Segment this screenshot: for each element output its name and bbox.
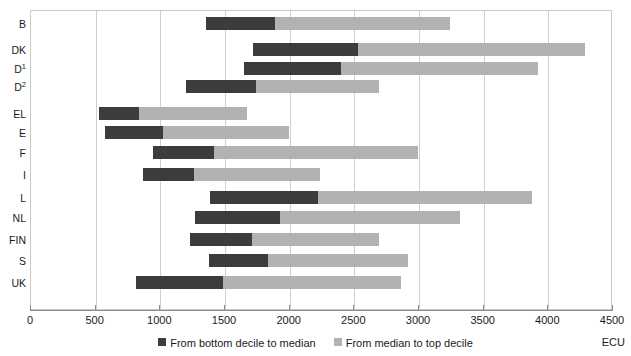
bar-segment-median-to-top (341, 62, 538, 75)
x-tick (159, 305, 160, 311)
x-tick (95, 305, 96, 311)
bar-row (30, 251, 612, 271)
y-axis-label-b: B (0, 14, 26, 34)
x-tick (418, 305, 419, 311)
bar-segment-median-to-top (280, 211, 460, 224)
y-axis-label-text: B (19, 18, 26, 30)
x-tick (483, 305, 484, 311)
bar (153, 146, 418, 159)
y-axis-label-superscript: 1 (22, 62, 26, 71)
bar-row (30, 123, 612, 143)
bar-segment-median-to-top (214, 146, 418, 159)
bar-segment-bottom-to-median (143, 168, 194, 181)
bar (136, 276, 401, 289)
y-axis-label-nl: NL (0, 208, 26, 228)
bar-segment-bottom-to-median (136, 276, 223, 289)
bar (195, 211, 460, 224)
x-tick (224, 305, 225, 311)
y-axis-label-d1: D1 (0, 59, 26, 79)
y-axis-label-dk: DK (0, 40, 26, 60)
bar (210, 191, 532, 204)
bar (105, 126, 289, 139)
x-tick (612, 305, 613, 311)
bar-segment-bottom-to-median (206, 17, 275, 30)
bar-segment-bottom-to-median (209, 254, 268, 267)
y-axis-label-el: EL (0, 104, 26, 124)
y-axis-label-text: D (14, 63, 22, 75)
y-axis-label-text: D (14, 81, 22, 93)
y-axis-label-text: S (19, 255, 26, 267)
bar-segment-median-to-top (318, 191, 532, 204)
y-axis-label-superscript: 2 (22, 80, 26, 89)
legend-swatch-icon (334, 338, 342, 346)
y-axis-label-text: UK (11, 277, 26, 289)
legend-item-0: From bottom decile to median (158, 334, 316, 351)
bar-row (30, 188, 612, 208)
bar-row (30, 14, 612, 34)
bar-segment-bottom-to-median (190, 233, 251, 246)
bar-segment-median-to-top (163, 126, 288, 139)
legend-label: From median to top decile (346, 335, 473, 351)
y-axis-label-text: F (20, 147, 26, 159)
bar (253, 43, 585, 56)
bar-row (30, 40, 612, 60)
bar-row (30, 104, 612, 124)
bar-segment-median-to-top (139, 107, 247, 120)
legend-label: From bottom decile to median (170, 335, 316, 351)
bar (186, 80, 379, 93)
x-tick-label: 4500 (600, 314, 624, 326)
x-tick-label: 0 (27, 314, 33, 326)
bar-segment-bottom-to-median (105, 126, 163, 139)
y-axis-label-text: DK (11, 44, 26, 56)
y-axis-label-text: E (19, 127, 26, 139)
bar-segment-median-to-top (256, 80, 379, 93)
bar (143, 168, 320, 181)
x-tick-label: 2500 (341, 314, 365, 326)
bar (206, 17, 450, 30)
bar-segment-median-to-top (358, 43, 585, 56)
x-tick (547, 305, 548, 311)
bar-segment-bottom-to-median (153, 146, 214, 159)
bar-segment-median-to-top (252, 233, 379, 246)
y-axis-label-text: NL (13, 212, 26, 224)
y-axis-label-l: L (0, 188, 26, 208)
y-axis-label-e: E (0, 123, 26, 143)
y-axis-label-text: EL (13, 108, 26, 120)
y-axis-label-uk: UK (0, 273, 26, 293)
bar-row (30, 143, 612, 163)
y-axis-labels: BDKD1D2ELEFILNLFINSUK (0, 10, 26, 310)
x-tick (353, 305, 354, 311)
bar-segment-median-to-top (275, 17, 450, 30)
bar-segment-median-to-top (268, 254, 408, 267)
bar-segment-bottom-to-median (244, 62, 341, 75)
chart-container: BDKD1D2ELEFILNLFINSUK 050010001500200025… (0, 0, 631, 356)
legend-item-1: From median to top decile (334, 334, 473, 351)
bar-segment-median-to-top (223, 276, 401, 289)
x-tick-label: 1500 (212, 314, 236, 326)
y-axis-label-d2: D2 (0, 77, 26, 97)
bars-layer (30, 10, 612, 310)
y-axis-label-s: S (0, 251, 26, 271)
x-tick-label: 500 (85, 314, 103, 326)
y-axis-label-i: I (0, 165, 26, 185)
bar-row (30, 59, 612, 79)
bar-row (30, 273, 612, 293)
bar-row (30, 165, 612, 185)
legend-swatch-icon (158, 338, 166, 346)
bar (209, 254, 408, 267)
y-axis-label-text: I (23, 169, 26, 181)
x-tick-label: 3000 (406, 314, 430, 326)
y-axis-label-text: L (20, 192, 26, 204)
bar-segment-bottom-to-median (99, 107, 139, 120)
x-tick-label: 3500 (470, 314, 494, 326)
x-axis-line (30, 310, 612, 311)
bar-segment-bottom-to-median (186, 80, 256, 93)
bar (190, 233, 379, 246)
bar-row (30, 77, 612, 97)
legend: From bottom decile to medianFrom median … (0, 334, 631, 350)
bar-segment-median-to-top (194, 168, 319, 181)
x-tick-label: 4000 (535, 314, 559, 326)
bar (99, 107, 247, 120)
unit-label: ECU (602, 334, 625, 350)
x-tick-label: 2000 (276, 314, 300, 326)
